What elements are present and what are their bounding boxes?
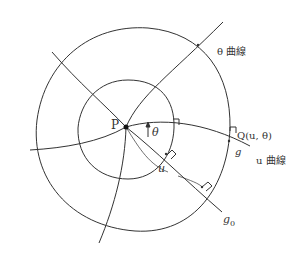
intersection-dot-q [228,140,230,142]
label-geodesic-g0: g0 [223,214,235,228]
g0-base: g [223,213,230,226]
right-angle-mark-3 [167,150,176,159]
label-angle-theta: θ [152,127,159,138]
label-arc-length-u: u [158,163,165,174]
g0-subscript: 0 [230,219,235,228]
right-angle-mark-2 [230,127,236,133]
label-u-curve: u 曲線 [256,156,286,166]
label-theta-curve: θ 曲線 [217,47,246,57]
label-point-q: Q(u, θ) [237,131,272,141]
point-p-dot [124,125,129,130]
label-point-p: P [111,119,119,131]
geodesic-g0 [126,127,222,212]
label-geodesic-g: g [235,147,241,157]
right-angle-mark-4 [202,182,212,191]
radial-curve-bottom [99,127,126,243]
geodesic-polar-diagram: P θ θ 曲線 Q(u, θ) g u 曲線 u g0 [0,0,299,261]
radial-curve-upper-left [52,52,126,127]
outer-geodesic-circle [36,28,230,232]
intersection-dot-theta [197,44,199,46]
intersection-dot-g0 [201,186,203,188]
intersection-dot-inner [165,153,167,155]
radial-curve-upper-right [126,22,223,127]
